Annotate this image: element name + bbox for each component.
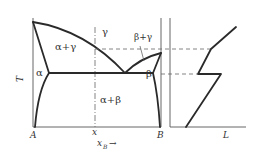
arrow-right-icon: → (109, 138, 117, 148)
region-alpha: α (36, 67, 43, 78)
label-a: A (29, 130, 37, 140)
label-l: L (222, 130, 229, 140)
region-beta-gamma: β+γ (134, 32, 152, 42)
beta-gamma-leader (140, 46, 144, 61)
region-alpha-gamma: α+γ (55, 41, 76, 52)
l-curve (186, 27, 236, 127)
label-b: B (156, 130, 164, 140)
x-axis-subscript: B (102, 143, 108, 150)
beta-solvus (153, 73, 160, 127)
region-beta: β (146, 68, 152, 79)
diagram-canvas: α+γ γ β+γ α β α+β T A x B x B → L (0, 0, 261, 157)
x-axis-label: x (97, 138, 102, 148)
structure-plot (170, 18, 246, 127)
beta-beta-gamma-boundary (153, 53, 161, 73)
label-x: x (92, 127, 97, 137)
region-alpha-beta: α+β (100, 94, 121, 105)
alpha-alpha-gamma-boundary (33, 22, 49, 73)
temperature-axis-label: T (15, 75, 25, 82)
alpha-solvus (35, 73, 49, 127)
region-gamma: γ (102, 26, 108, 37)
